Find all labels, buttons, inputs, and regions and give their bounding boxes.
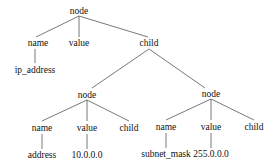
tree-node-value: value bbox=[69, 38, 90, 48]
tree-node-10-0-0-0: 10.0.0.0 bbox=[72, 150, 103, 160]
tree-edge bbox=[36, 16, 79, 37]
tree-edge bbox=[211, 99, 254, 120]
tree-edge bbox=[42, 100, 87, 121]
tree-node-node: node bbox=[202, 89, 220, 99]
tree-node-value: value bbox=[77, 123, 98, 133]
tree-edge bbox=[79, 16, 148, 37]
tree-node-ip-address: ip_address bbox=[15, 65, 56, 75]
tree-node-child: child bbox=[120, 123, 139, 133]
tree-edge bbox=[166, 99, 211, 120]
tree-node-child: child bbox=[245, 122, 264, 132]
tree-node-subnet-mask: subnet_mask bbox=[141, 149, 191, 159]
tree-node-name: name bbox=[156, 122, 177, 132]
tree-edge bbox=[87, 100, 129, 121]
tree-node-node: node bbox=[78, 90, 96, 100]
tree-node-value: value bbox=[201, 122, 222, 132]
tree-diagram: nodenamevaluechildip_addressnodenodename… bbox=[0, 0, 273, 168]
tree-node-address: address bbox=[28, 150, 57, 160]
tree-node-name: name bbox=[32, 123, 53, 133]
tree-node-child: child bbox=[140, 38, 159, 48]
tree-node-255-0-0-0: 255.0.0.0 bbox=[193, 149, 229, 159]
tree-edge bbox=[92, 49, 149, 88]
tree-edge bbox=[149, 49, 205, 88]
tree-node-node: node bbox=[70, 6, 88, 16]
tree-node-name: name bbox=[28, 38, 49, 48]
